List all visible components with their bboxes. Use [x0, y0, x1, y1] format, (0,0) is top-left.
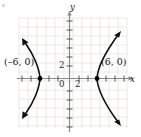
y-axis-label: y	[70, 3, 75, 12]
arrowhead-right-upper	[114, 31, 121, 38]
arrowhead-left-upper	[22, 38, 28, 46]
x-axis-label: x	[130, 75, 135, 84]
y-tick-label-2: 2	[59, 61, 64, 70]
hyperbola-graph-figure: (–6, 0) (6, 0) 2 0 2 y x	[0, 0, 141, 137]
vertex-point-right	[95, 76, 100, 81]
arrowhead-left-lower	[22, 111, 28, 119]
vertex-label-left: (–6, 0)	[4, 57, 34, 67]
origin-label: 0	[59, 80, 64, 89]
vertex-point-left	[38, 76, 43, 81]
vertex-label-right: (6, 0)	[101, 57, 127, 67]
arrowhead-right-lower	[114, 119, 121, 126]
x-tick-label-2: 2	[75, 80, 80, 89]
plot-canvas	[0, 0, 141, 137]
